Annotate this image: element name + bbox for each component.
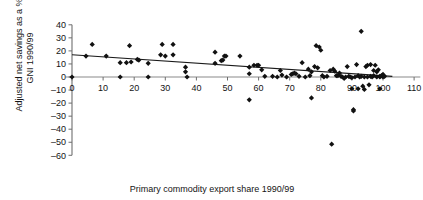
scatter-chart-figure: 403020100–10–20–30–40–50–600102030405060…	[0, 0, 423, 200]
x-tick-label: 80	[316, 83, 326, 93]
y-axis-title-line1: Adjusted net savings as a % of	[14, 0, 24, 112]
ticks-group	[69, 25, 415, 156]
y-tick-label: –40	[51, 124, 66, 134]
data-point	[237, 54, 242, 59]
x-tick-label: 10	[98, 83, 108, 93]
x-tick-label: 50	[222, 83, 232, 93]
data-point	[262, 74, 267, 79]
data-point	[160, 42, 165, 47]
chart-canvas: 403020100–10–20–30–40–50–600102030405060…	[0, 0, 423, 200]
y-tick-label: 20	[56, 46, 66, 56]
axes-group	[66, 25, 421, 156]
data-point	[275, 74, 280, 79]
data-point	[354, 62, 359, 67]
data-point	[104, 54, 109, 59]
data-point	[284, 74, 289, 79]
data-point	[128, 59, 133, 64]
x-tick-label: 20	[129, 83, 139, 93]
trend-line-segment	[72, 55, 392, 77]
data-point	[300, 60, 305, 65]
trend-line	[72, 55, 392, 77]
y-tick-label: –60	[51, 151, 66, 161]
data-point	[170, 42, 175, 47]
data-point	[247, 97, 252, 102]
y-tick-label: –30	[51, 111, 66, 121]
y-tick-label: 30	[56, 33, 66, 43]
x-axis-title: Primary commodity export share 1990/99	[130, 184, 295, 194]
data-point	[158, 52, 163, 57]
data-point	[90, 42, 95, 47]
y-tick-label: –20	[51, 98, 66, 108]
y-tick-label: 40	[56, 20, 66, 30]
data-point	[118, 74, 123, 79]
y-axis-title-line2: GNI 1990/99	[25, 32, 35, 83]
y-tick-label: –50	[51, 137, 66, 147]
data-point	[212, 61, 217, 66]
y-tick-label: 10	[56, 59, 66, 69]
data-point	[366, 82, 371, 87]
data-point	[270, 74, 275, 79]
x-tick-label: 70	[285, 83, 295, 93]
data-point	[247, 71, 252, 76]
data-point	[83, 54, 88, 59]
data-point	[329, 142, 334, 147]
x-tick-label: 40	[191, 83, 201, 93]
data-point	[146, 61, 151, 66]
data-point	[309, 95, 314, 100]
data-point	[373, 63, 378, 68]
data-point	[69, 74, 74, 79]
x-tick-label: 0	[69, 83, 74, 93]
data-point	[118, 60, 123, 65]
data-point	[212, 50, 217, 55]
data-point	[184, 74, 189, 79]
data-point	[127, 43, 132, 48]
y-tick-label: –10	[51, 85, 66, 95]
data-point	[124, 60, 129, 65]
x-tick-label: 110	[407, 83, 421, 93]
data-point	[247, 65, 252, 70]
data-point	[303, 74, 308, 79]
x-tick-label: 100	[375, 83, 390, 93]
data-point	[359, 29, 364, 34]
data-point	[163, 54, 168, 59]
x-tick-label: 60	[254, 83, 264, 93]
data-point	[183, 65, 188, 70]
data-point	[170, 52, 175, 57]
y-tick-label: 0	[61, 72, 66, 82]
data-point	[146, 74, 151, 79]
data-point	[345, 64, 350, 69]
data-point	[183, 69, 188, 74]
x-tick-label: 30	[160, 83, 170, 93]
